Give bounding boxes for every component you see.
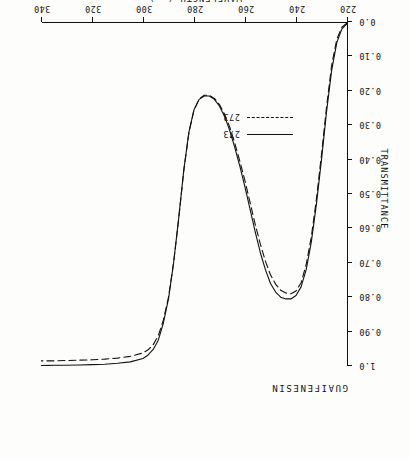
y-tick-label: 0.50: [359, 190, 381, 199]
y-tick-mark: [347, 124, 352, 125]
y-tick-label: 0.0: [359, 18, 376, 27]
y-tick-label: 0.40: [359, 155, 381, 164]
x-tick-mark: [92, 17, 93, 22]
y-axis-title: TRANSMITTANCE: [379, 149, 389, 230]
x-tick-label: 300: [136, 5, 153, 14]
x-tick-mark: [245, 17, 246, 22]
spectrum-figure: GUAIFENESIN 220240260280300320340 0.00.1…: [0, 0, 410, 459]
x-tick-mark: [194, 17, 195, 22]
x-axis-title: WAVELENGTH (nm): [148, 0, 241, 3]
y-tick-label: 0.70: [359, 259, 381, 268]
legend-item-label: 273: [223, 130, 240, 140]
y-tick-label: 0.60: [359, 224, 381, 233]
x-tick-label: 320: [85, 5, 102, 14]
y-tick-label: 0.10: [359, 52, 381, 61]
y-tick-mark: [347, 159, 352, 160]
spectrum-curves: [41, 22, 347, 366]
y-tick-label: 0.20: [359, 87, 381, 96]
y-tick-label: 0.80: [359, 293, 381, 302]
y-tick-mark: [347, 296, 352, 297]
x-tick-mark: [296, 17, 297, 22]
y-tick-mark: [347, 365, 352, 366]
y-tick-label: 0.90: [359, 327, 381, 336]
y-tick-label: 0.30: [359, 121, 381, 130]
legend-item-2[interactable]: 273: [223, 109, 293, 126]
x-tick-label: 240: [289, 5, 306, 14]
x-tick-label: 340: [34, 5, 51, 14]
y-tick-mark: [347, 331, 352, 332]
series-line-1: [41, 24, 347, 366]
legend-line-swatch-solid-icon: [247, 134, 293, 135]
series-line-2: [41, 23, 347, 361]
y-tick-mark: [347, 21, 352, 22]
legend-item-1[interactable]: 273: [223, 126, 293, 143]
y-tick-mark: [347, 193, 352, 194]
y-tick-mark: [347, 90, 352, 91]
x-tick-label: 220: [340, 5, 357, 14]
x-tick-mark: [143, 17, 144, 22]
rotated-figure-container: GUAIFENESIN 220240260280300320340 0.00.1…: [0, 0, 410, 459]
chart-title: GUAIFENESIN: [271, 383, 348, 393]
plot-area: [42, 22, 348, 366]
legend-item-label: 273: [223, 113, 240, 123]
y-tick-mark: [347, 55, 352, 56]
legend: 273273: [223, 109, 293, 143]
x-tick-mark: [41, 17, 42, 22]
x-tick-label: 260: [238, 5, 255, 14]
y-tick-label: 1.0: [359, 362, 376, 371]
legend-line-swatch-dashed-icon: [247, 117, 293, 118]
y-tick-mark: [347, 227, 352, 228]
x-tick-label: 280: [187, 5, 204, 14]
y-tick-mark: [347, 262, 352, 263]
